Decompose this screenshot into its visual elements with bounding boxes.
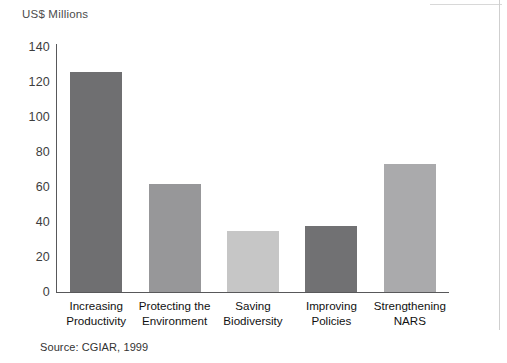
- y-axis-tick-label: 0: [16, 285, 50, 299]
- y-axis-tick-label: 80: [16, 145, 50, 159]
- bar-slot: [371, 0, 449, 292]
- bar-slot: [135, 0, 213, 292]
- page-edge-right-rule: [499, 0, 500, 330]
- bar: [70, 72, 122, 293]
- y-axis-tick-label: 40: [16, 215, 50, 229]
- chart-figure: US$ Millions 020406080100120140 Increasi…: [0, 0, 507, 363]
- x-axis-category-label: StrengtheningNARS: [364, 299, 456, 328]
- bar-slot: [57, 0, 135, 292]
- x-axis-category-label-line: NARS: [364, 314, 456, 329]
- bar-slot: [214, 0, 292, 292]
- y-axis-tick-label: 120: [16, 75, 50, 89]
- source-note: Source: CGIAR, 1999: [40, 341, 148, 353]
- bar: [305, 226, 357, 293]
- y-axis-tick-label: 100: [16, 110, 50, 124]
- y-axis-tick-label: 140: [16, 40, 50, 54]
- x-axis-category-labels: IncreasingProductivityProtecting theEnvi…: [57, 299, 449, 343]
- y-axis-tick-labels: 020406080100120140: [8, 0, 50, 363]
- bar: [227, 231, 279, 292]
- bar: [384, 164, 436, 292]
- x-axis-category-label-line: Strengthening: [364, 299, 456, 314]
- bar-series: [57, 0, 449, 292]
- y-axis-tick-label: 60: [16, 180, 50, 194]
- bar: [149, 184, 201, 293]
- bar-slot: [292, 0, 370, 292]
- y-axis-tick-label: 20: [16, 250, 50, 264]
